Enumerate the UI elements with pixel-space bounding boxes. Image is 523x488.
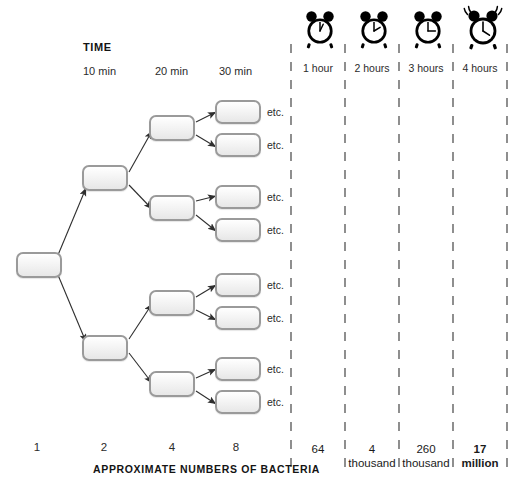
count-gen1: 2 bbox=[94, 442, 114, 454]
timeline-dividers bbox=[291, 44, 507, 474]
bacteria-growth-diagram: TIME 10 min 20 min 30 min bbox=[0, 0, 523, 488]
bottom-caption: APPROXIMATE NUMBERS OF BACTERIA bbox=[93, 464, 320, 475]
hour-label-2: 2 hours bbox=[345, 63, 399, 74]
etc-label-4: etc. bbox=[267, 225, 284, 236]
time-tick-30min: 30 min bbox=[219, 66, 252, 77]
etc-label-6: etc. bbox=[267, 313, 284, 324]
timeline-value-2: 4 thousand bbox=[345, 442, 399, 471]
bacteria-cell-gen0 bbox=[16, 252, 62, 278]
timeline-value-1-number: 64 bbox=[312, 443, 325, 455]
timeline-value-4: 17 million bbox=[453, 442, 507, 471]
time-tick-10min: 10 min bbox=[83, 66, 116, 77]
alarm-clock-icon-4-hours bbox=[459, 4, 507, 52]
timeline-value-3: 260 thousand bbox=[399, 442, 453, 471]
alarm-clock-icon-2-hours bbox=[353, 8, 395, 50]
bacteria-cell-gen3-8 bbox=[215, 390, 261, 414]
bacteria-cell-gen3-3 bbox=[215, 185, 261, 209]
bacteria-cell-gen3-2 bbox=[215, 133, 261, 157]
time-tick-20min: 20 min bbox=[155, 66, 188, 77]
bacteria-cell-gen3-1 bbox=[215, 100, 261, 124]
timeline-value-4-number: 17 bbox=[474, 443, 487, 455]
hour-label-3: 3 hours bbox=[399, 63, 453, 74]
etc-label-5: etc. bbox=[267, 280, 284, 291]
hour-label-4: 4 hours bbox=[453, 63, 507, 74]
bacteria-cell-gen1-a bbox=[82, 165, 128, 191]
bacteria-cell-gen2-d bbox=[149, 371, 195, 397]
etc-label-1: etc. bbox=[267, 107, 284, 118]
bacteria-cell-gen3-7 bbox=[215, 357, 261, 381]
count-gen2: 4 bbox=[162, 442, 182, 454]
etc-label-7: etc. bbox=[267, 364, 284, 375]
etc-label-2: etc. bbox=[267, 140, 284, 151]
count-gen3: 8 bbox=[226, 442, 246, 454]
bacteria-cell-gen2-b bbox=[149, 195, 195, 221]
bacteria-cell-gen3-4 bbox=[215, 218, 261, 242]
bacteria-cell-gen3-5 bbox=[215, 273, 261, 297]
timeline-value-3-number: 260 bbox=[416, 443, 435, 455]
etc-label-8: etc. bbox=[267, 397, 284, 408]
hour-label-1: 1 hour bbox=[291, 63, 345, 74]
alarm-clock-icon-1-hour bbox=[299, 8, 341, 50]
bacteria-cell-gen2-a bbox=[149, 115, 195, 141]
bacteria-cell-gen2-c bbox=[149, 290, 195, 316]
timeline-value-3-unit: thousand bbox=[402, 457, 449, 469]
etc-label-3: etc. bbox=[267, 192, 284, 203]
timeline-value-2-unit: thousand bbox=[348, 457, 395, 469]
bacteria-cell-gen3-6 bbox=[215, 306, 261, 330]
timeline-value-2-number: 4 bbox=[369, 443, 375, 455]
timeline-value-4-unit: million bbox=[461, 457, 498, 469]
count-gen0: 1 bbox=[27, 442, 47, 454]
time-heading: TIME bbox=[83, 42, 112, 53]
bacteria-cell-gen1-b bbox=[82, 335, 128, 361]
alarm-clock-icon-3-hours bbox=[407, 8, 449, 50]
timeline-value-1: 64 bbox=[291, 442, 345, 456]
